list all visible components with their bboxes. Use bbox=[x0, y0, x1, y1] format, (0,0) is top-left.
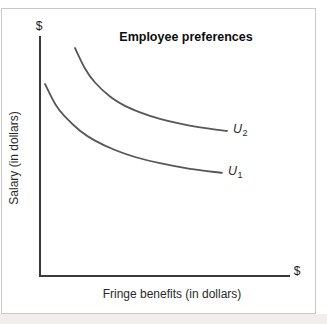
indifference-curves bbox=[45, 48, 227, 173]
y-axis-dollar-symbol: $ bbox=[36, 20, 43, 33]
curve-u2 bbox=[75, 48, 227, 131]
curve-label-u2: U2 bbox=[233, 123, 247, 137]
curve-u1 bbox=[45, 84, 222, 173]
curve-label-u1-base: U bbox=[228, 164, 237, 178]
figure-screenshot: Employee preferences $ $ Salary (in doll… bbox=[0, 0, 327, 324]
x-axis-label: Fringe benefits (in dollars) bbox=[103, 288, 242, 301]
chart-title: Employee preferences bbox=[119, 31, 252, 45]
curve-label-u1: U1 bbox=[228, 165, 242, 179]
y-axis-label: Salary (in dollars) bbox=[8, 111, 21, 204]
curve-label-u2-subscript: 2 bbox=[243, 128, 248, 138]
axes bbox=[40, 36, 290, 276]
curve-label-u2-base: U bbox=[233, 122, 242, 136]
x-axis-dollar-symbol: $ bbox=[294, 265, 301, 278]
curve-label-u1-subscript: 1 bbox=[238, 170, 243, 180]
plot-canvas bbox=[0, 0, 327, 324]
